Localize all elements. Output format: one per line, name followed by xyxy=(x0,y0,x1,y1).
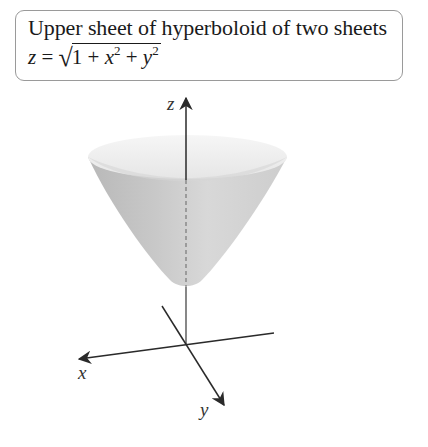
x-axis xyxy=(79,333,274,359)
y-axis-label: y xyxy=(198,399,209,420)
hyperboloid-figure: z x y xyxy=(0,0,428,447)
x-axis-label: x xyxy=(77,362,87,383)
surface-rim xyxy=(88,135,287,179)
y-axis xyxy=(162,306,224,405)
z-axis-label: z xyxy=(166,93,175,114)
